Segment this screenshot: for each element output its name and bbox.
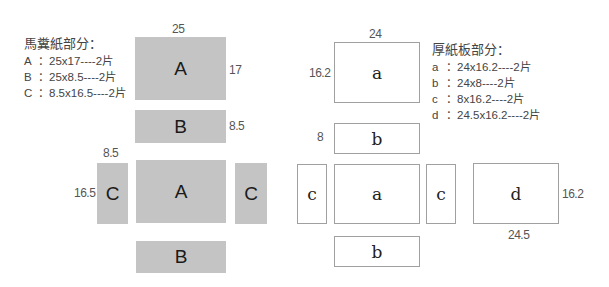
dim-width-25: 25	[172, 22, 184, 36]
dim-width-24: 24	[369, 27, 381, 41]
piece-d: d	[473, 163, 559, 224]
legend-row-c: C：8.5x16.5----2片	[24, 85, 126, 101]
piece-top-A: A	[135, 37, 226, 100]
piece-top-a: a	[334, 42, 420, 103]
dim-height-17: 17	[229, 63, 241, 77]
piece-top-B: B	[135, 110, 226, 143]
piece-mid-A: A	[136, 160, 226, 223]
legend-row-d: d：24.5x16.2----2片	[432, 107, 540, 123]
piece-bottom-b: b	[334, 236, 420, 267]
dim-height-8-5: 8.5	[229, 119, 244, 133]
legend-row-a: A：25x17----2片	[24, 53, 126, 69]
piece-top-b: b	[334, 123, 420, 154]
piece-right-C: C	[235, 163, 267, 224]
piece-left-c: c	[297, 164, 327, 224]
dim-height-16-2: 16.2	[309, 66, 330, 80]
legend-title: 馬糞紙部分：	[24, 36, 126, 52]
cardboard-legend: 馬糞紙部分： A：25x17----2片 B：25x8.5----2片 C：8.…	[24, 36, 126, 101]
legend-row-b: B：25x8.5----2片	[24, 69, 126, 85]
dim-width-24-5: 24.5	[508, 228, 529, 242]
dim-height-16-2-d: 16.2	[562, 187, 583, 201]
legend-title: 厚紙板部分：	[432, 42, 540, 58]
legend-row-a: a：24x16.2----2片	[432, 59, 540, 75]
dim-height-16-5: 16.5	[74, 186, 95, 200]
dim-height-8: 8	[317, 130, 323, 144]
paperboard-legend: 厚紙板部分： a：24x16.2----2片 b：24x8----2片 c：8x…	[432, 42, 540, 123]
piece-left-C: C	[97, 163, 128, 224]
piece-bottom-B: B	[136, 241, 226, 273]
piece-right-c: c	[426, 164, 456, 224]
dim-width-8-5: 8.5	[103, 146, 118, 160]
legend-row-b: b：24x8----2片	[432, 75, 540, 91]
piece-mid-a: a	[334, 164, 420, 224]
legend-row-c: c：8x16.2----2片	[432, 91, 540, 107]
